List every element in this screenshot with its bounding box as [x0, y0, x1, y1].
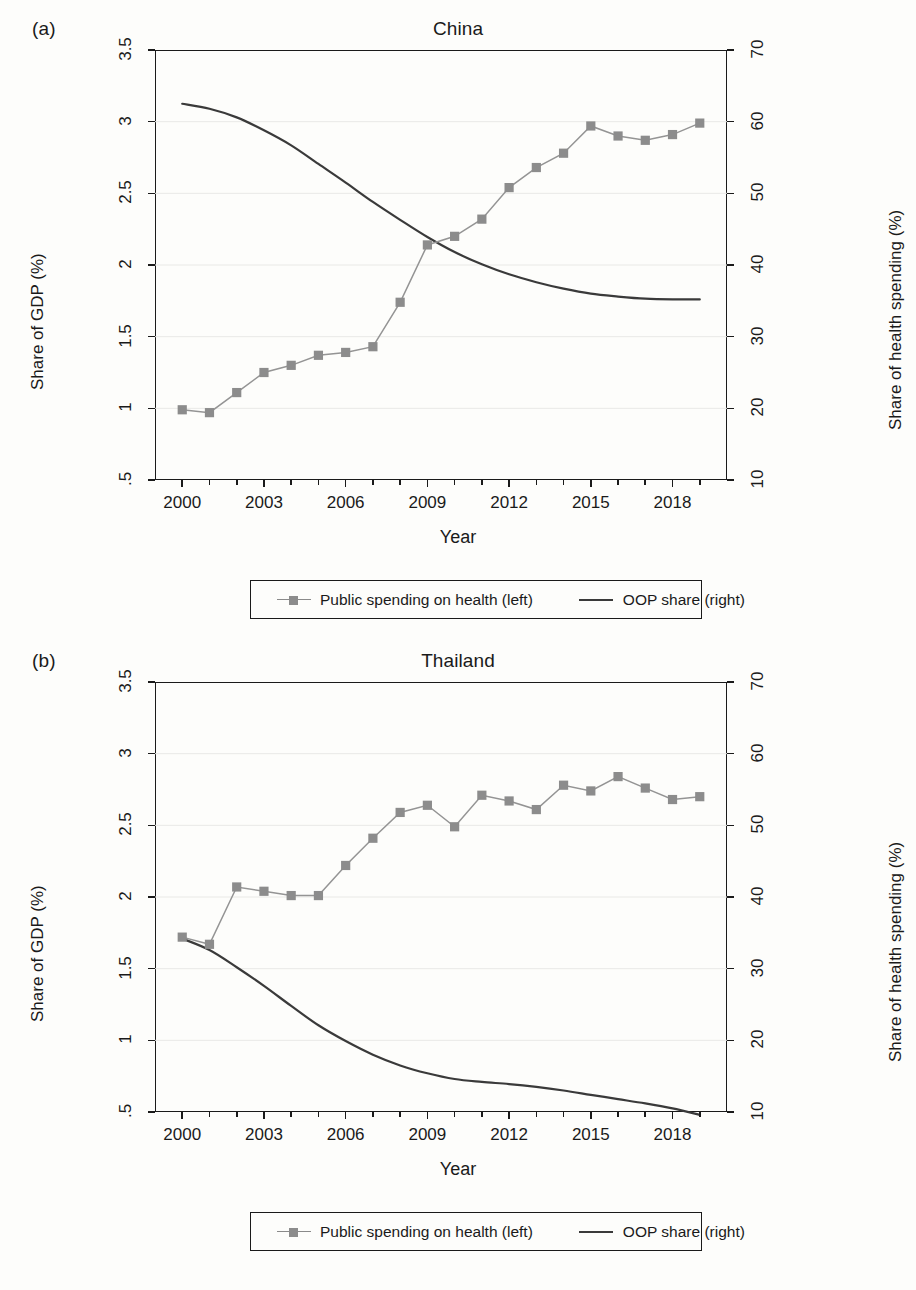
x-tick — [399, 1112, 401, 1117]
y-tick-label-right: 50 — [748, 807, 768, 841]
y-tick-label-left: 2 — [116, 879, 136, 913]
legend-item-oop-share: OOP share (right) — [579, 591, 745, 609]
y-tick-right — [727, 681, 734, 683]
y-tick-left — [148, 681, 155, 683]
y-axis-label-right-china: Share of health spending (%) — [886, 210, 906, 430]
y-tick-right — [727, 49, 734, 51]
y-tick-left — [148, 825, 155, 827]
legend-label-oop-share: OOP share (right) — [623, 1223, 745, 1241]
y-tick-right — [727, 753, 734, 755]
panel-china: (a) China Share of GDP (%) Share of heal… — [0, 0, 916, 640]
y-tick-label-left: 1.5 — [116, 319, 136, 353]
legend-thailand: Public spending on health (left) OOP sha… — [250, 1212, 702, 1251]
x-tick — [318, 1112, 320, 1117]
x-tick — [481, 480, 483, 485]
y-tick-label-right: 40 — [748, 247, 768, 281]
y-tick-right — [727, 121, 734, 123]
y-axis-label-left-thailand: Share of GDP (%) — [28, 885, 48, 1022]
x-tick — [290, 1112, 292, 1117]
y-tick-label-left: 3.5 — [116, 664, 136, 698]
y-tick-right — [727, 1040, 734, 1042]
legend-item-oop-share: OOP share (right) — [579, 1223, 745, 1241]
y-tick-left — [148, 1040, 155, 1042]
x-tick — [209, 480, 211, 485]
y-tick-label-left: 1 — [116, 390, 136, 424]
x-tick — [181, 1112, 183, 1119]
legend-item-public-spending: Public spending on health (left) — [277, 591, 533, 609]
y-tick-left — [148, 1111, 155, 1113]
y-tick-right — [727, 408, 734, 410]
y-tick-label-left: 1 — [116, 1022, 136, 1056]
x-tick — [236, 480, 238, 485]
x-tick-label: 2015 — [564, 493, 618, 513]
x-tick — [372, 480, 374, 485]
y-tick-left — [148, 968, 155, 970]
x-tick — [699, 1112, 701, 1117]
y-tick-label-left: .5 — [116, 462, 136, 496]
y-tick-right — [727, 1111, 734, 1113]
y-tick-right — [727, 968, 734, 970]
x-tick-label: 2006 — [319, 493, 373, 513]
y-tick-right — [727, 336, 734, 338]
y-tick-label-left: 2.5 — [116, 175, 136, 209]
legend-marker-square-icon — [277, 1226, 311, 1238]
y-tick-label-left: 1.5 — [116, 951, 136, 985]
y-tick-label-right: 10 — [748, 462, 768, 496]
chart-title-china: China — [0, 18, 916, 40]
x-tick — [563, 1112, 565, 1117]
y-tick-left — [148, 753, 155, 755]
legend-line-icon — [579, 1231, 613, 1233]
x-tick — [290, 480, 292, 485]
x-tick — [699, 480, 701, 485]
y-axis-label-left-china: Share of GDP (%) — [28, 253, 48, 390]
x-tick — [536, 480, 538, 485]
x-tick — [590, 480, 592, 487]
y-tick-label-right: 20 — [748, 390, 768, 424]
y-tick-label-left: 2 — [116, 247, 136, 281]
x-tick — [263, 480, 265, 487]
x-tick — [209, 1112, 211, 1117]
legend-label-public-spending: Public spending on health (left) — [320, 1223, 533, 1241]
x-tick-label: 2009 — [400, 1125, 454, 1145]
y-tick-label-left: .5 — [116, 1094, 136, 1128]
y-tick-label-right: 10 — [748, 1094, 768, 1128]
x-tick — [672, 1112, 674, 1119]
chart-svg-china — [155, 50, 727, 480]
y-tick-label-right: 70 — [748, 32, 768, 66]
x-tick — [590, 1112, 592, 1119]
x-tick — [236, 1112, 238, 1117]
x-tick-label: 2012 — [482, 1125, 536, 1145]
y-tick-right — [727, 264, 734, 266]
y-tick-label-right: 30 — [748, 319, 768, 353]
x-tick-label: 2012 — [482, 493, 536, 513]
x-tick — [508, 480, 510, 487]
y-tick-label-left: 2.5 — [116, 807, 136, 841]
y-tick-label-right: 60 — [748, 104, 768, 138]
x-tick-label: 2003 — [237, 493, 291, 513]
y-tick-left — [148, 49, 155, 51]
x-tick — [399, 480, 401, 485]
y-tick-left — [148, 896, 155, 898]
legend-label-oop-share: OOP share (right) — [623, 591, 745, 609]
x-tick — [345, 480, 347, 487]
x-tick-label: 2003 — [237, 1125, 291, 1145]
x-tick — [427, 480, 429, 487]
y-tick-left — [148, 121, 155, 123]
y-tick-label-left: 3 — [116, 736, 136, 770]
x-tick — [617, 1112, 619, 1117]
legend-marker-square-icon — [277, 594, 311, 606]
chart-title-thailand: Thailand — [0, 650, 916, 672]
y-tick-right — [727, 896, 734, 898]
x-tick — [181, 480, 183, 487]
x-tick-label: 2015 — [564, 1125, 618, 1145]
x-axis-label-china: Year — [0, 527, 916, 548]
y-tick-right — [727, 193, 734, 195]
y-tick-label-right: 30 — [748, 951, 768, 985]
y-tick-left — [148, 479, 155, 481]
x-tick-label: 2000 — [155, 1125, 209, 1145]
x-tick — [644, 1112, 646, 1117]
legend-item-public-spending: Public spending on health (left) — [277, 1223, 533, 1241]
x-tick — [372, 1112, 374, 1117]
y-tick-right — [727, 479, 734, 481]
chart-svg-thailand — [155, 682, 727, 1112]
